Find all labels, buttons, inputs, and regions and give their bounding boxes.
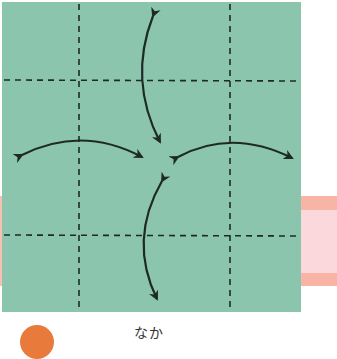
step-marker-circle: [20, 325, 54, 359]
caption-text: なか: [134, 326, 164, 340]
paper-square: [2, 2, 301, 312]
